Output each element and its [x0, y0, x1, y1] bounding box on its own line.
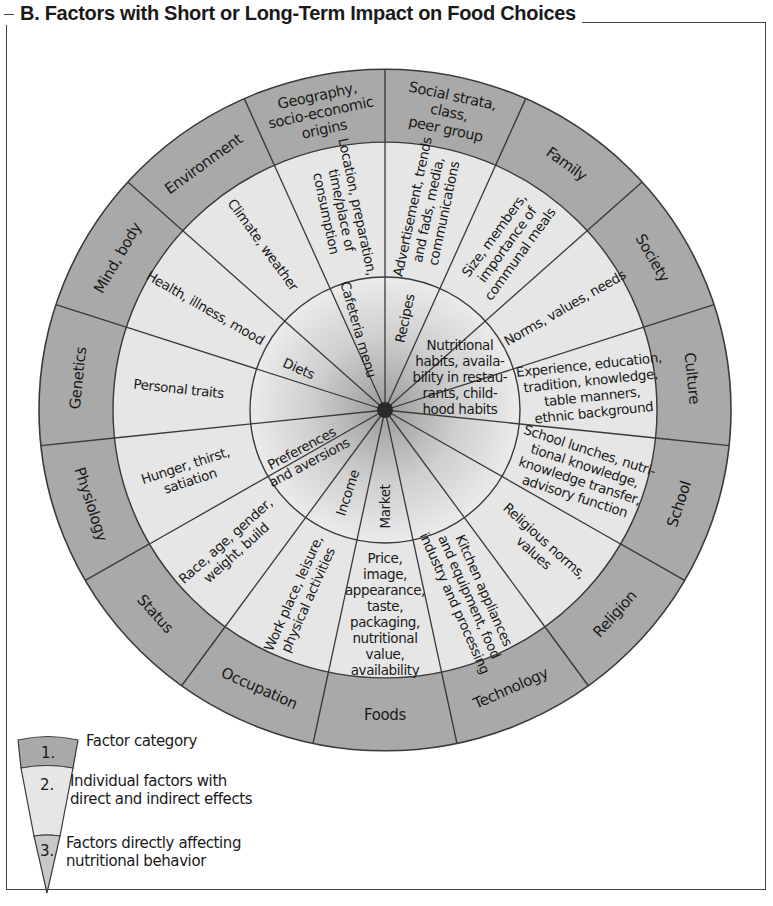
- center-hub: [377, 402, 393, 418]
- legend: Factor category Individual factors with …: [14, 725, 294, 885]
- wheel-layers: Social strata,class,peer groupFamilySoci…: [39, 69, 731, 751]
- inner-factor-market: Market: [377, 484, 393, 528]
- legend-label-individual-factors: Individual factors with direct and indir…: [70, 772, 252, 808]
- category-label-foods: Foods: [364, 706, 406, 724]
- legend-label-factor-category: Factor category: [86, 732, 197, 750]
- legend-label-direct-factors: Factors directly affecting nutritional b…: [66, 834, 241, 870]
